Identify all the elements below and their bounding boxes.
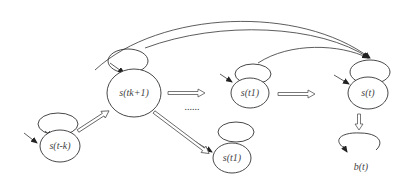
entry-arrow [220, 74, 232, 82]
dbl-arrow-stk1-to-st1 [168, 89, 205, 97]
node-s-t: s(t) [334, 60, 390, 109]
node-label: s(t1) [241, 87, 260, 99]
dbl-arrow-stk1-to-st1b [152, 109, 212, 157]
node-label: s(tk+1) [119, 87, 149, 99]
self-loop [339, 133, 380, 150]
self-loop [218, 122, 254, 142]
entry-arrow [24, 133, 37, 143]
edge-st1-to-st [258, 47, 368, 63]
node-label: b(t) [354, 161, 369, 173]
entry-arrow [334, 75, 349, 84]
node-label: s(t1) [223, 152, 242, 164]
loop-arrow [343, 146, 347, 152]
node-label: s(t) [361, 87, 375, 99]
curved-edges [95, 21, 370, 70]
ellipsis: ...... [185, 101, 200, 112]
node-b-t: b(t) [339, 133, 380, 173]
node-s-t-minus-k: s(t-k) [24, 113, 80, 162]
dbl-arrow-st1-to-st [278, 90, 315, 98]
state-diagram: s(t-k) s(tk+1) s(t1) s(t1) s(t) b(t) [0, 0, 400, 186]
dbl-arrow-st-to-bt [355, 114, 363, 130]
node-s-t1-top: s(t1) [220, 64, 271, 108]
node-label: s(t-k) [49, 140, 71, 152]
edge-stk1-to-st [145, 30, 369, 58]
dbl-arrow-stk-to-stk1 [76, 107, 111, 134]
edge-stk-to-st [95, 21, 370, 70]
node-s-tk-plus-1: s(tk+1) [107, 49, 161, 117]
